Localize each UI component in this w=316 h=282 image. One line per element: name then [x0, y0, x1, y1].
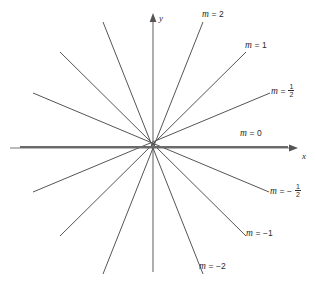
- label-m-half-fraction: 1 2: [288, 83, 294, 98]
- label-m-neg-half-numerator: 1: [295, 183, 301, 191]
- label-m-0-symbol: m: [240, 128, 247, 138]
- label-m-half-symbol: m: [271, 86, 278, 96]
- label-m-neg-2: m = −2: [199, 262, 226, 272]
- label-m-neg-2-value: = −2: [208, 261, 225, 271]
- label-m-2-value: = 2: [211, 9, 223, 19]
- label-m-neg-half: m = − 1 2: [270, 183, 301, 198]
- label-m-0-value: = 0: [249, 128, 261, 138]
- label-m-2: m = 2: [202, 10, 224, 20]
- label-m-half-denominator: 2: [288, 91, 294, 98]
- label-m-half-equals: =: [280, 86, 285, 96]
- label-m-1-value: = 1: [254, 40, 266, 50]
- x-axis-label: x: [302, 152, 306, 161]
- label-m-1-symbol: m: [245, 40, 252, 50]
- label-m-neg-half-fraction: 1 2: [295, 183, 301, 198]
- label-m-2-symbol: m: [202, 9, 209, 19]
- label-m-0: m = 0: [240, 129, 262, 139]
- label-m-neg-1: m = −1: [246, 229, 273, 239]
- label-m-neg-1-symbol: m: [246, 228, 253, 238]
- y-axis-label: y: [159, 14, 163, 23]
- label-m-neg-half-denominator: 2: [295, 191, 301, 198]
- label-m-neg-half-symbol: m: [270, 186, 277, 196]
- plot-canvas: [0, 0, 316, 282]
- slope-family-figure: y x m = 2 m = 1 m = 1 2 m = 0 m = − 1 2 …: [0, 0, 316, 282]
- label-m-neg-1-value: = −1: [255, 228, 272, 238]
- label-m-half: m = 1 2: [271, 83, 294, 98]
- label-m-neg-2-symbol: m: [199, 261, 206, 271]
- label-m-neg-half-equals: = −: [279, 186, 292, 196]
- label-m-1: m = 1: [245, 41, 267, 51]
- label-m-half-numerator: 1: [288, 83, 294, 91]
